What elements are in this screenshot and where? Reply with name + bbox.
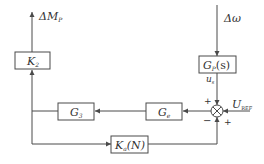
block-diagram: ΔMP K2 G3 Ge Δω GP(s) us + + − UREF Ka(N… — [0, 0, 264, 164]
summing-junction — [211, 105, 223, 117]
input-label: Δω — [223, 12, 241, 25]
output-label: ΔMP — [38, 10, 63, 23]
sign-bottom: − — [203, 115, 211, 126]
sign-top: + — [204, 96, 212, 106]
block-gp-label: GP(s) — [203, 59, 230, 72]
sign-right: + — [224, 117, 232, 127]
us-label: us — [206, 74, 215, 85]
uref-label: UREF — [232, 98, 253, 111]
block-ka-label: Ka(N) — [114, 139, 145, 152]
